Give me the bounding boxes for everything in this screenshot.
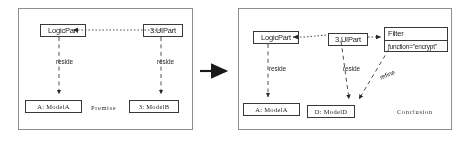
premise-panel: LogicPart 3.UIPart A: ModelA 3: ModelB r…: [18, 8, 193, 130]
node-logicpart-premise[interactable]: LogicPart: [40, 24, 86, 37]
node-uipart-premise[interactable]: 3.UIPart: [143, 24, 183, 37]
edge-label-reside-conclusion-mid: reside: [343, 65, 360, 72]
node-filter-attribute: function="encrypt": [385, 41, 447, 53]
edge-label-reside-conclusion-left: reside: [269, 65, 286, 72]
diagram-canvas: LogicPart 3.UIPart A: ModelA 3: ModelB r…: [0, 0, 463, 144]
node-modela-premise[interactable]: A: ModelA: [25, 100, 82, 113]
edge-label-reside-premise-left: reside: [56, 58, 73, 65]
conclusion-panel: LogicPart 3.UIPart Filter function="encr…: [238, 8, 452, 130]
node-logicpart-conclusion[interactable]: LogicPart: [253, 31, 299, 44]
node-modelb-premise[interactable]: 3: ModelB: [129, 100, 179, 113]
node-modeld-conclusion[interactable]: D: ModelD: [307, 105, 355, 118]
node-filter-name: Filter: [385, 28, 447, 41]
node-uipart-conclusion[interactable]: 3.UIPart: [328, 33, 368, 46]
edge-label-refine-conclusion: refine: [379, 68, 396, 80]
region-label-conclusion: Conclusion: [397, 108, 433, 115]
node-modela-conclusion[interactable]: A: ModelA: [243, 103, 300, 116]
node-filter-conclusion[interactable]: Filter function="encrypt": [384, 27, 448, 52]
edge-label-reside-premise-right: reside: [157, 58, 174, 65]
region-label-premise: Premise: [91, 104, 116, 111]
